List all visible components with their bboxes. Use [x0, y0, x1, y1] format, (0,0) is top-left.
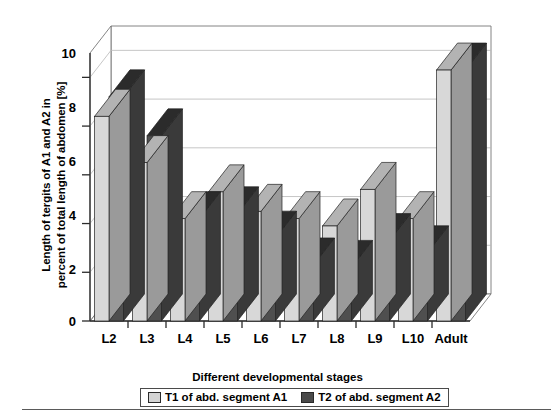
legend-label: T2 of abd. segment A2	[318, 391, 440, 403]
x-axis-title: Different developmental stages	[0, 371, 555, 383]
legend-item-series-1: T1 of abd. segment A1	[148, 391, 287, 403]
legend-swatch-icon	[148, 392, 161, 403]
x-tick-label: Adult	[432, 332, 470, 345]
chart-legend: T1 of abd. segment A1 T2 of abd. segment…	[140, 388, 449, 407]
chart-figure: Length of tergits of A1 and A2 in percen…	[0, 0, 555, 419]
x-tick-label: L3	[128, 332, 166, 345]
legend-item-series-2: T2 of abd. segment A2	[301, 391, 440, 403]
bar-side	[451, 43, 472, 321]
x-tick-label: L8	[318, 332, 356, 345]
bar-series-1	[95, 89, 130, 321]
x-tick-label: L10	[394, 332, 432, 345]
x-tick-label: L5	[204, 332, 242, 345]
plot-area	[0, 0, 555, 419]
bar-side	[147, 136, 168, 321]
legend-swatch-icon	[301, 392, 314, 403]
x-tick-label: L7	[280, 332, 318, 345]
x-tick-label: L2	[90, 332, 128, 345]
legend-label: T1 of abd. segment A1	[165, 391, 287, 403]
page-rule-divider	[22, 409, 551, 410]
x-tick-label: L6	[242, 332, 280, 345]
x-tick-label: L9	[356, 332, 394, 345]
bar-side	[109, 89, 130, 321]
x-tick-label: L4	[166, 332, 204, 345]
bar-face	[95, 116, 109, 321]
bar-side	[375, 162, 396, 321]
